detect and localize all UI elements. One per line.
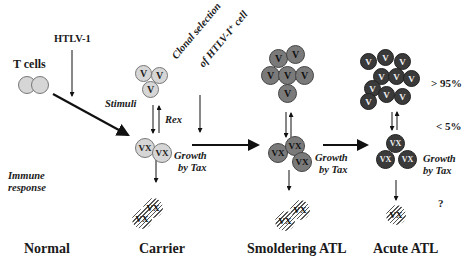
question-mark: ? <box>438 197 444 209</box>
v-cell: V <box>394 88 411 105</box>
v-cell: V <box>360 53 377 70</box>
rex-label: Rex <box>165 114 182 125</box>
t-cells-label: T cells <box>13 57 46 72</box>
vx-cell: VX <box>398 150 417 169</box>
v-cell: V <box>278 84 297 103</box>
vx-cell: VX <box>292 152 312 172</box>
dead-vx-cell: VX <box>275 211 295 231</box>
stage-carrier: Carrier <box>139 241 185 257</box>
v-cell: V <box>286 45 305 64</box>
normal-t-cell <box>31 76 49 94</box>
stimuli-label: Stimuli <box>105 98 137 109</box>
growth-by-tax-carrier: Growth by Tax <box>174 150 207 174</box>
growth-by-tax-acute: Growth by Tax <box>423 153 456 177</box>
v-cell: V <box>142 81 159 98</box>
v-cell: V <box>135 65 152 82</box>
v-cell: V <box>360 93 377 110</box>
v-cell: V <box>377 49 394 66</box>
pct-low-label: < 5% <box>436 120 462 132</box>
stage-smoldering: Smoldering ATL <box>247 241 347 257</box>
dead-vx-cell: VX <box>386 205 406 225</box>
stage-acute: Acute ATL <box>373 241 438 257</box>
v-cell: V <box>378 86 395 103</box>
pct-high-label: > 95% <box>431 77 462 89</box>
vx-cell: VX <box>152 143 172 163</box>
dead-vx-cell: VX <box>132 209 152 229</box>
v-cell: V <box>403 70 420 87</box>
growth-by-tax-smoldering: Growth by Tax <box>315 152 348 176</box>
vx-cell: VX <box>376 150 395 169</box>
stage-normal: Normal <box>24 241 70 257</box>
immune-response-label: Immune response <box>8 170 46 194</box>
htlv1-label: HTLV-1 <box>54 33 91 44</box>
v-cell: V <box>295 66 314 85</box>
